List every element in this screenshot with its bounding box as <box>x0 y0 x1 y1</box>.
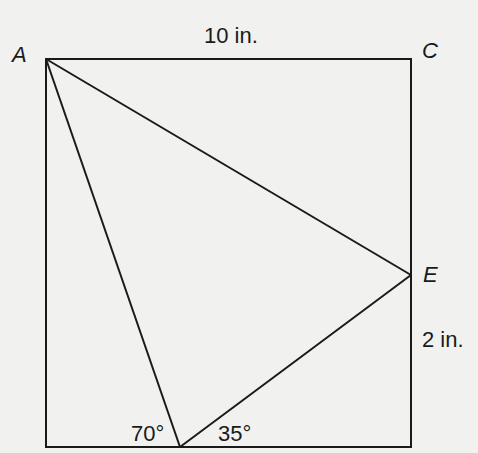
label-point-c: C <box>422 40 438 62</box>
segment-bottom-e <box>180 275 411 447</box>
outer-rectangle <box>46 59 411 447</box>
label-angle-35: 35° <box>218 423 251 445</box>
segment-a-bottom <box>46 59 180 447</box>
geometry-figure <box>0 0 478 453</box>
segment-a-e <box>46 59 411 275</box>
label-top-side-length: 10 in. <box>204 25 258 47</box>
label-right-segment-length: 2 in. <box>422 329 464 351</box>
label-point-a: A <box>12 44 27 66</box>
label-point-e: E <box>423 264 438 286</box>
label-angle-70: 70° <box>131 423 164 445</box>
